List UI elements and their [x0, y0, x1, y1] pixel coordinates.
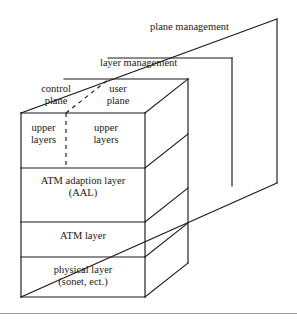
cube-top-right-edge — [145, 79, 188, 113]
depth-line-aal-atm — [145, 188, 188, 222]
plane-management-top-edge — [21, 19, 277, 113]
dashed-divider-top-face — [66, 79, 109, 113]
atm-reference-model-figure: plane management layer management contro… — [0, 0, 297, 319]
cube-top-left-edge — [21, 79, 64, 113]
diagram-canvas — [0, 0, 297, 319]
depth-line-upper-layers-aal — [145, 134, 188, 168]
plane-management-bottom-edge — [21, 183, 277, 297]
depth-line-atm-physical — [145, 223, 188, 257]
outer-cube-wireframe — [21, 19, 277, 297]
control-user-plane-dashed-separators — [66, 79, 109, 168]
side-face-bottom-edge — [145, 263, 188, 297]
